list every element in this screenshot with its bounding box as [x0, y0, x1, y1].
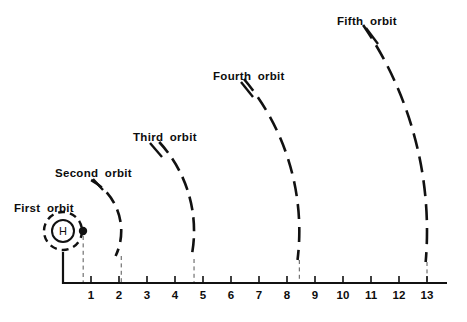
- orbit-arc-fourth: [244, 79, 299, 260]
- label-leader-line: [150, 143, 162, 157]
- orbit-label-fourth: Fourth orbit: [213, 70, 285, 82]
- axis-spine: [63, 252, 447, 283]
- bohr-orbit-diagram: 12345678910111213 H First orbitSecond or…: [0, 0, 467, 322]
- axis-tick-label: 7: [256, 289, 262, 301]
- axis-layer: 12345678910111213: [63, 252, 447, 301]
- orbit-arc-fifth: [363, 25, 427, 262]
- orbit-arcs-layer: [91, 25, 427, 262]
- orbit-arc-third: [159, 142, 194, 259]
- axis-tick-label: 5: [200, 289, 207, 301]
- axis-tick-label: 11: [365, 289, 378, 301]
- axis-tick-label: 4: [172, 289, 179, 301]
- electron-dot: [79, 227, 87, 235]
- axis-tick-label: 9: [312, 289, 318, 301]
- axis-tick-label: 8: [284, 289, 291, 301]
- orbit-label-first: First orbit: [14, 202, 74, 214]
- axis-tick-label: 12: [393, 289, 406, 301]
- axis-tick-label: 10: [337, 289, 350, 301]
- axis-tick-label: 2: [116, 289, 122, 301]
- nucleus-symbol: H: [59, 225, 67, 237]
- orbit-label-fifth: Fifth orbit: [337, 15, 397, 27]
- orbit-label-second: Second orbit: [55, 167, 132, 179]
- axis-tick-label: 6: [228, 289, 234, 301]
- label-leader-line: [366, 28, 378, 44]
- orbit-label-third: Third orbit: [133, 131, 197, 143]
- axis-tick-label: 3: [144, 289, 150, 301]
- drop-lines-layer: [83, 236, 427, 283]
- axis-tick-label: 1: [88, 289, 95, 301]
- orbit-labels-layer: First orbitSecond orbitThird orbitFourth…: [14, 15, 397, 214]
- label-leader-line: [93, 179, 103, 190]
- orbit-arc-second: [91, 180, 121, 256]
- atom-layer: H: [44, 212, 87, 250]
- axis-tick-label: 13: [421, 289, 434, 301]
